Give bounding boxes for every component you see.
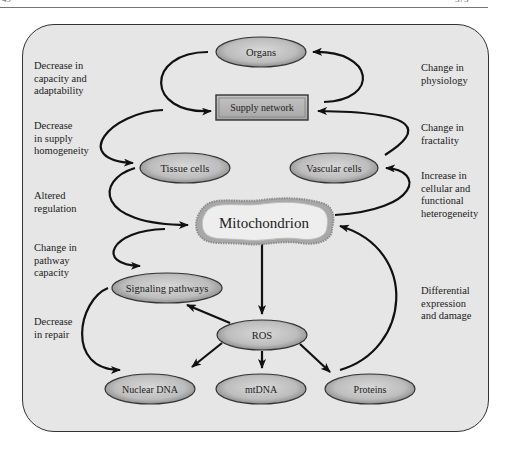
- arrow-ros-to-signaling: [187, 305, 230, 323]
- arrow-ros-to-nuclear: [192, 343, 222, 367]
- node-organs-label: Organs: [246, 47, 276, 58]
- node-mtdna-label: mtDNA: [245, 384, 278, 395]
- arrow-signaling-to-nuclear: [82, 288, 120, 370]
- node-vascular-cells: Vascular cells: [290, 153, 378, 183]
- label-capacity-adaptability: Decrease in capacity and adaptability: [34, 60, 87, 98]
- arrow-supply-to-tissue: [101, 110, 163, 163]
- node-signaling-pathways-label: Signaling pathways: [126, 283, 209, 294]
- node-tissue-cells-label: Tissue cells: [161, 163, 210, 174]
- label-decrease-repair: Decrease in repair: [34, 316, 72, 341]
- node-vascular-cells-label: Vascular cells: [306, 163, 361, 174]
- node-supply-network-label: Supply network: [230, 102, 294, 113]
- node-ros: ROS: [217, 320, 307, 350]
- node-mitochondrion: Mitochondrion: [196, 198, 333, 244]
- node-signaling-pathways: Signaling pathways: [112, 273, 222, 303]
- label-pathway-capacity: Change in pathway capacity: [34, 242, 77, 280]
- label-supply-homogeneity: Decrease in supply homogeneity: [34, 120, 89, 158]
- label-change-fractality: Change in fractality: [421, 122, 464, 147]
- node-mtdna: mtDNA: [216, 374, 306, 404]
- node-ros-label: ROS: [252, 330, 273, 341]
- node-supply-network: Supply network: [216, 95, 308, 120]
- node-proteins: Proteins: [325, 374, 415, 404]
- node-tissue-cells: Tissue cells: [140, 153, 230, 183]
- node-proteins-label: Proteins: [354, 384, 387, 395]
- node-nuclear-dna-label: Nuclear DNA: [122, 384, 179, 395]
- arrow-organs-to-supply: [161, 52, 211, 111]
- label-change-physiology: Change in physiology: [421, 62, 468, 87]
- arrow-supply-to-organs: [313, 52, 363, 102]
- node-mitochondrion-label: Mitochondrion: [219, 215, 309, 231]
- arrow-vascular-to-supply: [318, 111, 408, 155]
- label-cellular-heterogeneity: Increase in cellular and functional hete…: [421, 170, 478, 220]
- arrow-ros-to-proteins: [300, 344, 330, 372]
- node-nuclear-dna: Nuclear DNA: [105, 374, 195, 404]
- node-organs: Organs: [216, 37, 306, 67]
- label-differential-expression: Differential expression and damage: [421, 285, 471, 323]
- label-altered-regulation: Altered regulation: [34, 190, 77, 215]
- arrow-mito-to-signaling: [114, 229, 165, 266]
- arrow-proteins-to-mito: [340, 226, 396, 370]
